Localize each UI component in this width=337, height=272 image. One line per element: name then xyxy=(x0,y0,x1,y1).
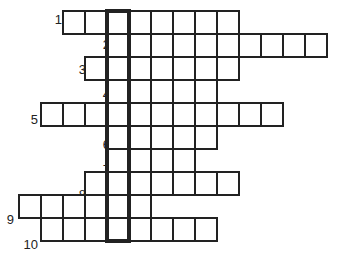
crossword-cell[interactable] xyxy=(216,33,240,58)
crossword-cell[interactable] xyxy=(172,125,196,150)
crossword-cell[interactable] xyxy=(150,56,174,81)
crossword-cell[interactable] xyxy=(128,79,152,104)
crossword-cell[interactable] xyxy=(216,56,240,81)
crossword-cell[interactable] xyxy=(128,148,152,173)
crossword-cell[interactable] xyxy=(194,171,218,196)
crossword-cell[interactable] xyxy=(62,194,86,219)
crossword-cell[interactable] xyxy=(172,217,196,242)
crossword-cell[interactable] xyxy=(128,102,152,127)
crossword-cell[interactable] xyxy=(194,56,218,81)
crossword-cell[interactable] xyxy=(40,102,64,127)
crossword-cell[interactable] xyxy=(172,102,196,127)
crossword-cell[interactable] xyxy=(216,102,240,127)
crossword-cell[interactable] xyxy=(172,148,196,173)
crossword-cell[interactable] xyxy=(150,33,174,58)
crossword-cell[interactable] xyxy=(128,217,152,242)
crossword-cell[interactable] xyxy=(238,102,262,127)
crossword-cell[interactable] xyxy=(194,102,218,127)
crossword-cell[interactable] xyxy=(62,217,86,242)
crossword-cell[interactable] xyxy=(150,125,174,150)
crossword-cell[interactable] xyxy=(150,171,174,196)
crossword-cell[interactable] xyxy=(238,33,262,58)
crossword-cell[interactable] xyxy=(260,102,284,127)
crossword-cell[interactable] xyxy=(150,217,174,242)
crossword-cell[interactable] xyxy=(194,125,218,150)
crossword-cell[interactable] xyxy=(216,171,240,196)
crossword-cell[interactable] xyxy=(40,194,64,219)
crossword-cell[interactable] xyxy=(128,125,152,150)
highlighted-column xyxy=(105,9,131,243)
crossword-cell[interactable] xyxy=(194,79,218,104)
crossword-cell[interactable] xyxy=(40,217,64,242)
crossword-cell[interactable] xyxy=(128,10,152,35)
crossword-cell[interactable] xyxy=(172,56,196,81)
crossword-cell[interactable] xyxy=(172,171,196,196)
crossword-cell[interactable] xyxy=(304,33,328,58)
crossword-grid: 12345678910 xyxy=(0,0,337,272)
crossword-cell[interactable] xyxy=(62,102,86,127)
crossword-cell[interactable] xyxy=(128,56,152,81)
crossword-cell[interactable] xyxy=(150,10,174,35)
crossword-cell[interactable] xyxy=(150,148,174,173)
crossword-cell[interactable] xyxy=(150,79,174,104)
crossword-cell[interactable] xyxy=(194,217,218,242)
crossword-cell[interactable] xyxy=(260,33,284,58)
crossword-cell[interactable] xyxy=(172,10,196,35)
crossword-cell[interactable] xyxy=(150,102,174,127)
clue-number: 9 xyxy=(0,212,14,227)
crossword-cell[interactable] xyxy=(18,194,42,219)
clue-number: 10 xyxy=(18,237,38,252)
crossword-cell[interactable] xyxy=(282,33,306,58)
crossword-cell[interactable] xyxy=(128,194,152,219)
crossword-cell[interactable] xyxy=(194,10,218,35)
crossword-cell[interactable] xyxy=(172,79,196,104)
crossword-cell[interactable] xyxy=(194,33,218,58)
clue-number: 5 xyxy=(18,112,38,127)
crossword-cell[interactable] xyxy=(172,33,196,58)
crossword-cell[interactable] xyxy=(216,10,240,35)
crossword-cell[interactable] xyxy=(62,10,86,35)
crossword-cell[interactable] xyxy=(128,171,152,196)
clue-number: 3 xyxy=(66,62,86,77)
crossword-cell[interactable] xyxy=(128,33,152,58)
clue-number: 1 xyxy=(42,12,62,27)
